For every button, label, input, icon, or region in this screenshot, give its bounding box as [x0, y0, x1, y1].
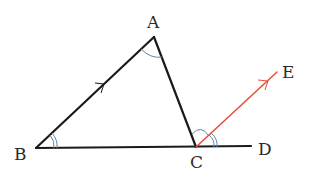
label-c: C	[190, 152, 203, 172]
segment-bd	[36, 146, 251, 148]
segment-ac	[154, 37, 196, 147]
angle-arc-c-ace	[192, 129, 209, 136]
angle-arc-c-ecd-inner	[209, 135, 214, 147]
label-a: A	[146, 12, 160, 32]
triangle-exterior-angle-diagram: A B C D E	[0, 0, 317, 185]
label-e: E	[282, 62, 294, 82]
label-b: B	[14, 144, 27, 164]
segment-ce	[196, 72, 277, 147]
angle-arc-b-inner	[50, 135, 54, 148]
segment-ab	[36, 37, 154, 148]
label-d: D	[258, 139, 272, 159]
